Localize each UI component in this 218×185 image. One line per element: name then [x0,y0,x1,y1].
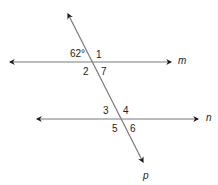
angle-5-label: 5 [112,124,118,134]
angle-62-label: 62° [70,49,85,59]
angle-4-label: 4 [123,106,129,116]
angle-2-label: 2 [83,67,89,77]
angle-6-label: 6 [130,124,136,134]
line-p [68,14,143,162]
label-m: m [178,56,186,66]
angle-1-label: 1 [96,50,102,60]
angle-7-label: 7 [101,67,107,77]
parallel-lines-diagram [0,0,218,185]
angle-3-label: 3 [103,106,109,116]
label-p: p [143,171,149,181]
label-n: n [206,113,212,123]
